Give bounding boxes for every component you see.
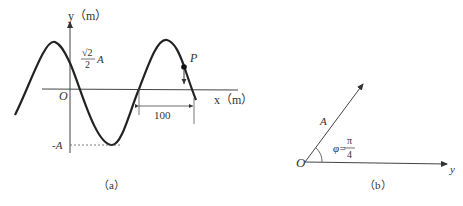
amplitude-label: A <box>96 53 104 65</box>
point-p <box>181 64 187 70</box>
caption-b: （b） <box>364 179 392 191</box>
wave-curve <box>15 40 196 145</box>
axis-label-y: y <box>449 163 455 175</box>
vector-label: A <box>319 115 327 127</box>
x-axis-label: x（m） <box>214 93 253 107</box>
angle-arc <box>316 148 322 162</box>
sqrt2-denominator: 2 <box>85 59 90 70</box>
distance-label: 100 <box>154 109 171 121</box>
angle-denominator: 4 <box>347 149 352 160</box>
figure-a: y（m） x（m） O √2 2 A -A P 100 （a） <box>15 9 253 191</box>
origin-label: O <box>59 89 68 103</box>
neg-amplitude-label: -A <box>52 139 63 151</box>
caption-a: （a） <box>98 179 125 191</box>
point-p-label: P <box>189 51 198 65</box>
angle-numerator: π <box>347 135 352 146</box>
physics-figure: y（m） x（m） O √2 2 A -A P 100 （a） O A y φ=… <box>0 0 463 206</box>
horizontal-axis <box>305 162 447 164</box>
origin-label-b: O <box>296 155 306 170</box>
y-axis-label: y（m） <box>68 9 107 23</box>
sqrt2-numerator: √2 <box>82 47 93 58</box>
figure-b: O A y φ= π 4 （b） <box>296 84 455 191</box>
